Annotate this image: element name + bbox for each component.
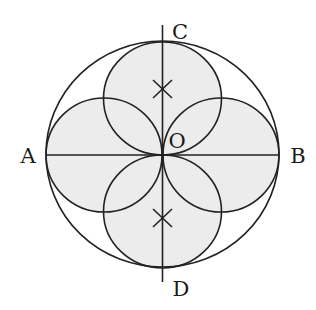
label-C: C bbox=[172, 22, 188, 43]
label-O: O bbox=[168, 131, 185, 152]
diagram-canvas: A B C D O bbox=[0, 0, 316, 310]
label-A: A bbox=[20, 146, 35, 167]
label-B: B bbox=[290, 146, 305, 167]
geometry-figure bbox=[0, 0, 316, 310]
label-D: D bbox=[173, 279, 190, 300]
